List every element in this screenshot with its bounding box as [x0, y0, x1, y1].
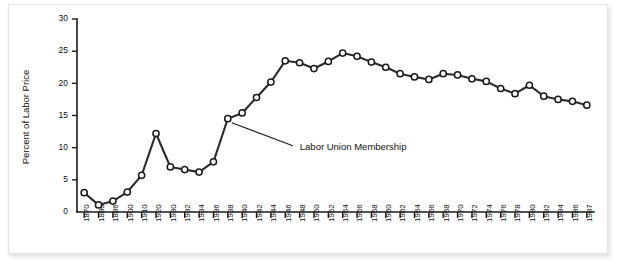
- data-point-marker: [454, 72, 460, 78]
- data-point-marker: [182, 166, 188, 172]
- x-axis: 1870188018861900191019201930193219341936…: [77, 204, 594, 222]
- x-tick-label: 1984: [556, 204, 565, 222]
- data-point-marker: [411, 74, 417, 80]
- x-tick-label: 1938: [226, 204, 235, 222]
- data-point-marker: [139, 172, 145, 178]
- x-tick-label: 1986: [571, 204, 580, 222]
- x-tick-label: 1964: [413, 204, 422, 222]
- data-point-marker: [210, 159, 216, 165]
- data-point-marker: [95, 202, 101, 208]
- data-point-marker: [368, 59, 374, 65]
- x-tick-label: 1958: [370, 204, 379, 222]
- y-axis: 051015202530: [59, 13, 77, 216]
- data-point-marker: [512, 91, 518, 97]
- data-point-marker: [569, 98, 575, 104]
- x-tick-label: 1946: [284, 204, 293, 222]
- data-point-marker: [526, 82, 532, 88]
- y-tick-label: 15: [59, 110, 69, 120]
- y-tick-label: 0: [63, 206, 68, 216]
- x-tick-label: 1976: [499, 204, 508, 222]
- x-tick-label: 1936: [212, 204, 221, 222]
- series-annotation: Labor Union Membership: [232, 123, 407, 153]
- data-point-marker: [325, 58, 331, 64]
- data-point-marker: [225, 116, 231, 122]
- x-tick-label: 1948: [298, 204, 307, 222]
- data-point-marker: [541, 93, 547, 99]
- data-point-marker: [426, 76, 432, 82]
- y-axis-title: Percent of Labor Price: [20, 70, 31, 165]
- x-tick-label: 1950: [312, 204, 321, 222]
- data-point-marker: [196, 169, 202, 175]
- chart-panel: 051015202530 187018801886190019101920193…: [8, 4, 608, 254]
- data-point-marker: [440, 71, 446, 77]
- data-point-marker: [296, 60, 302, 66]
- data-point-marker: [555, 96, 561, 102]
- data-point-marker: [397, 71, 403, 77]
- x-tick-label: 1966: [427, 204, 436, 222]
- data-point-marker: [110, 198, 116, 204]
- data-point-marker: [383, 64, 389, 70]
- x-tick-label: 1870: [82, 204, 91, 222]
- data-point-marker: [483, 78, 489, 84]
- x-tick-label: 1942: [255, 204, 264, 222]
- chart-svg: 051015202530 187018801886190019101920193…: [9, 5, 609, 255]
- x-tick-label: 1968: [442, 204, 451, 222]
- x-tick-label: 1954: [341, 204, 350, 222]
- data-point-marker: [282, 58, 288, 64]
- x-tick-label: 1952: [327, 204, 336, 222]
- data-point-marker: [167, 164, 173, 170]
- annotation-leader-line: [232, 123, 293, 146]
- x-tick-label: 1934: [197, 204, 206, 222]
- annotation-label: Labor Union Membership: [300, 141, 407, 152]
- x-tick-label: 1962: [398, 204, 407, 222]
- data-point-marker: [354, 53, 360, 59]
- x-tick-label: 1972: [470, 204, 479, 222]
- y-tick-label: 30: [59, 13, 69, 23]
- x-tick-label: 1980: [528, 204, 537, 222]
- x-tick-label: 1956: [355, 204, 364, 222]
- line-chart: 051015202530 187018801886190019101920193…: [9, 5, 609, 255]
- y-tick-label: 20: [59, 78, 69, 88]
- x-tick-label: 1940: [240, 204, 249, 222]
- data-series: [84, 53, 587, 205]
- x-tick-label: 1974: [485, 204, 494, 222]
- y-tick-label: 25: [59, 45, 69, 55]
- data-point-marker: [253, 94, 259, 100]
- data-point-marker: [469, 76, 475, 82]
- x-tick-label: 1960: [384, 204, 393, 222]
- y-tick-label: 5: [63, 174, 68, 184]
- x-tick-label: 1982: [542, 204, 551, 222]
- series-polyline: [84, 53, 587, 205]
- data-point-marker: [153, 130, 159, 136]
- x-tick-label: 1900: [126, 204, 135, 222]
- x-tick-label: 1910: [140, 204, 149, 222]
- y-tick-label: 10: [59, 142, 69, 152]
- x-tick-label: 1930: [169, 204, 178, 222]
- x-tick-label: 1886: [111, 204, 120, 222]
- data-point-marker: [239, 110, 245, 116]
- x-tick-label: 1920: [154, 204, 163, 222]
- data-point-marker: [498, 85, 504, 91]
- x-tick-label: 1944: [269, 204, 278, 222]
- data-point-markers: [81, 50, 590, 208]
- data-point-marker: [124, 189, 130, 195]
- x-tick-label: 1970: [456, 204, 465, 222]
- x-tick-label: 1987: [585, 204, 594, 222]
- x-tick-label: 1932: [183, 204, 192, 222]
- data-point-marker: [584, 102, 590, 108]
- x-tick-label: 1978: [513, 204, 522, 222]
- data-point-marker: [311, 65, 317, 71]
- data-point-marker: [340, 50, 346, 56]
- data-point-marker: [81, 190, 87, 196]
- data-point-marker: [268, 79, 274, 85]
